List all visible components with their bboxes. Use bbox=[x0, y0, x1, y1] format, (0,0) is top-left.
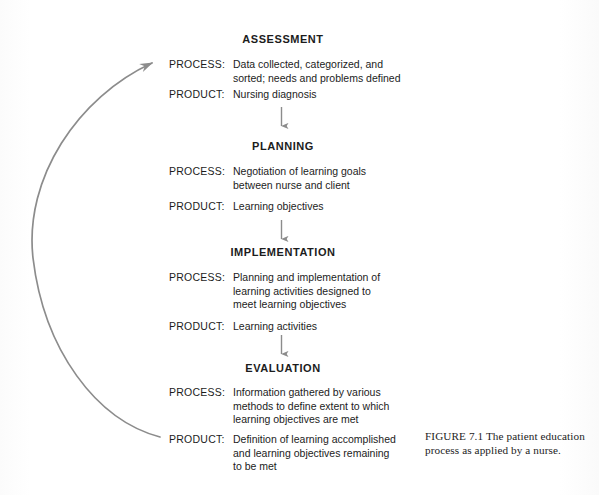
planning-process-row: PROCESS: Negotiation of learning goals b… bbox=[169, 165, 366, 192]
stage-title-planning: PLANNING bbox=[169, 140, 397, 152]
figure-caption: FIGURE 7.1 The patient education process… bbox=[425, 430, 593, 458]
product-label: PRODUCT: bbox=[169, 320, 233, 332]
process-label: PROCESS: bbox=[169, 386, 233, 398]
implementation-process-text: Planning and implementation of learning … bbox=[233, 271, 380, 312]
implementation-product-row: PRODUCT: Learning activities bbox=[169, 320, 317, 334]
implementation-process-row: PROCESS: Planning and implementation of … bbox=[169, 271, 380, 312]
assessment-process-row: PROCESS: Data collected, categorized, an… bbox=[169, 58, 401, 85]
assessment-product-row: PRODUCT: Nursing diagnosis bbox=[169, 88, 316, 102]
product-label: PRODUCT: bbox=[169, 88, 233, 100]
implementation-product-text: Learning activities bbox=[233, 320, 317, 334]
process-label: PROCESS: bbox=[169, 58, 233, 70]
figure-canvas: ASSESSMENT PROCESS: Data collected, cate… bbox=[0, 0, 599, 495]
stage-title-assessment: ASSESSMENT bbox=[169, 33, 397, 45]
evaluation-product-text: Definition of learning accomplished and … bbox=[233, 433, 396, 474]
evaluation-process-row: PROCESS: Information gathered by various… bbox=[169, 386, 389, 427]
planning-product-row: PRODUCT: Learning objectives bbox=[169, 200, 323, 214]
process-label: PROCESS: bbox=[169, 271, 233, 283]
process-label: PROCESS: bbox=[169, 165, 233, 177]
assessment-process-text: Data collected, categorized, and sorted;… bbox=[233, 58, 401, 85]
stage-title-implementation: IMPLEMENTATION bbox=[169, 246, 397, 258]
stage-title-evaluation: EVALUATION bbox=[169, 362, 397, 374]
evaluation-process-text: Information gathered by various methods … bbox=[233, 386, 389, 427]
feedback-loop-arrow bbox=[32, 63, 160, 437]
planning-product-text: Learning objectives bbox=[233, 200, 323, 214]
product-label: PRODUCT: bbox=[169, 433, 233, 445]
planning-process-text: Negotiation of learning goals between nu… bbox=[233, 165, 366, 192]
assessment-product-text: Nursing diagnosis bbox=[233, 88, 316, 102]
product-label: PRODUCT: bbox=[169, 200, 233, 212]
evaluation-product-row: PRODUCT: Definition of learning accompli… bbox=[169, 433, 396, 474]
